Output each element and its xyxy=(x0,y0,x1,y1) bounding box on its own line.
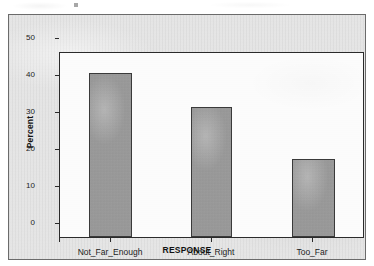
scan-artifact-haze xyxy=(0,0,374,13)
x-tick-about-right xyxy=(211,238,212,242)
plot-area xyxy=(59,52,364,238)
y-tick-label-50: 50 xyxy=(11,34,35,42)
figure-frame: Percent 50 40 30 20 10 0 Not_Far_Enough … xyxy=(8,14,366,260)
x-tick-not-far-enough xyxy=(110,238,111,242)
y-tick-label-30: 30 xyxy=(11,108,35,116)
chart-screenshot: Percent 50 40 30 20 10 0 Not_Far_Enough … xyxy=(0,0,374,266)
y-tick-label-20: 20 xyxy=(11,145,35,153)
bar-too-far[interactable] xyxy=(292,159,335,237)
y-tick-label-10: 10 xyxy=(11,182,35,190)
y-tick-label-40: 40 xyxy=(11,71,35,79)
y-tick-label-0: 0 xyxy=(11,219,35,227)
x-tick-too-far xyxy=(312,238,313,242)
y-tick-50 xyxy=(55,38,59,39)
bar-not-far-enough[interactable] xyxy=(89,73,132,237)
x-tick-start xyxy=(59,238,60,242)
scan-artifact-speck xyxy=(74,3,78,7)
bar-about-right[interactable] xyxy=(191,107,232,237)
x-axis-title: RESPONSE xyxy=(0,245,374,255)
